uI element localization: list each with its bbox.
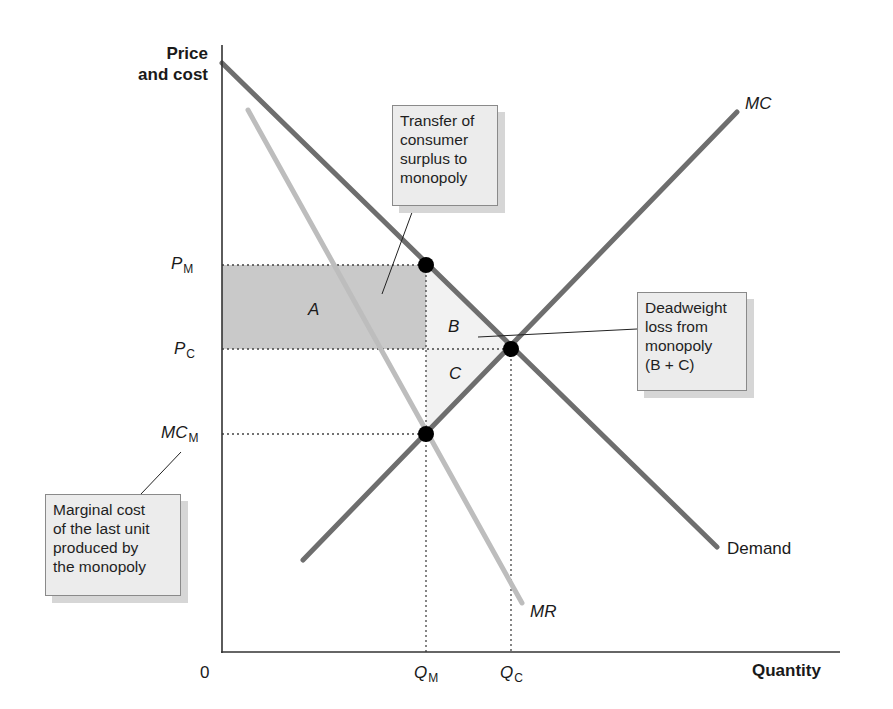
transfer-callout-line: Transfer of <box>400 111 490 130</box>
deadweight-callout-line: loss from <box>645 317 739 336</box>
pc-label-main: P <box>174 339 185 358</box>
monopoly-price-point <box>418 257 434 273</box>
pm-label: PM <box>171 255 193 275</box>
marginal-cost-leader-line <box>141 452 181 494</box>
pc-label-sub: C <box>186 347 195 361</box>
y-axis-title-line2: and cost <box>138 66 208 83</box>
qc-label: QC <box>500 664 523 684</box>
mcm-label-main: MC <box>161 423 187 442</box>
qm-label: QM <box>414 664 438 684</box>
mcm-label: MCM <box>161 424 198 444</box>
mr-curve-label: MR <box>530 603 556 620</box>
x-axis-title: Quantity <box>752 662 821 679</box>
qc-label-main: Q <box>500 663 513 682</box>
transfer-callout-line: consumer <box>400 130 490 149</box>
region-b-label: B <box>448 318 459 335</box>
marginal-cost-callout-line: of the last unit <box>53 519 173 538</box>
region-c-label: C <box>449 365 461 382</box>
marginal-cost-callout-line: Marginal cost <box>53 500 173 519</box>
transfer-callout-line: surplus to <box>400 149 490 168</box>
origin-label: 0 <box>200 664 209 681</box>
mcm-label-sub: M <box>188 431 198 445</box>
pm-label-main: P <box>171 254 182 273</box>
marginal-cost-callout-line: the monopoly <box>53 557 173 576</box>
qm-label-main: Q <box>414 663 427 682</box>
deadweight-callout: Deadweight loss from monopoly (B + C) <box>637 292 747 391</box>
marginal-cost-callout-line: produced by <box>53 538 173 557</box>
deadweight-callout-line: (B + C) <box>645 355 739 374</box>
marginal-cost-callout: Marginal cost of the last unit produced … <box>45 494 181 596</box>
monopoly-output-point <box>418 426 434 442</box>
qm-label-sub: M <box>428 671 438 685</box>
transfer-callout: Transfer of consumer surplus to monopoly <box>392 105 498 206</box>
deadweight-callout-line: Deadweight <box>645 298 739 317</box>
y-axis-title-line1: Price <box>166 45 208 62</box>
region-a-area <box>222 265 426 349</box>
pc-label: PC <box>174 340 195 360</box>
deadweight-leader-line <box>478 329 637 337</box>
pm-label-sub: M <box>183 262 193 276</box>
deadweight-callout-line: monopoly <box>645 336 739 355</box>
region-a-label: A <box>308 301 319 318</box>
competitive-equilibrium-point <box>503 341 519 357</box>
mc-curve-label: MC <box>745 95 771 112</box>
transfer-callout-line: monopoly <box>400 168 490 187</box>
demand-curve-label: Demand <box>727 540 791 557</box>
qc-label-sub: C <box>514 671 523 685</box>
